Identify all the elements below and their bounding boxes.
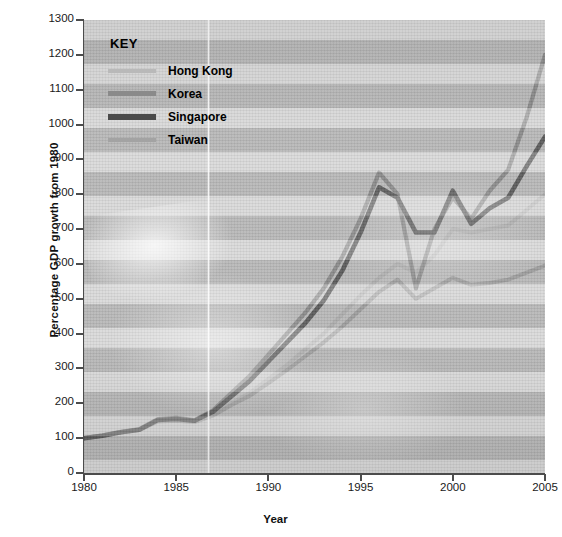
x-tick-mark (267, 474, 269, 481)
y-tick-label: 1300 (28, 13, 74, 25)
y-tick-label: 200 (28, 396, 74, 408)
y-tick-label: 500 (28, 292, 74, 304)
y-tick-mark (76, 193, 84, 195)
x-tick-label: 2000 (423, 481, 483, 493)
legend: KEY Hong KongKoreaSingaporeTaiwan (108, 36, 298, 151)
y-tick-label: 900 (28, 152, 74, 164)
y-tick-mark (76, 228, 84, 230)
y-tick-mark (76, 402, 84, 404)
y-tick-label: 700 (28, 222, 74, 234)
y-tick-mark (76, 367, 84, 369)
legend-item-taiwan: Taiwan (108, 128, 298, 151)
legend-swatch-icon (108, 138, 156, 142)
legend-label: Taiwan (168, 133, 208, 147)
legend-items: Hong KongKoreaSingaporeTaiwan (108, 59, 298, 151)
y-tick-mark (76, 263, 84, 265)
y-tick-label: 300 (28, 361, 74, 373)
legend-item-korea: Korea (108, 82, 298, 105)
y-tick-label: 100 (28, 431, 74, 443)
y-tick-label: 400 (28, 327, 74, 339)
y-tick-mark (76, 298, 84, 300)
legend-title: KEY (110, 36, 298, 51)
y-tick-mark (76, 19, 84, 21)
y-tick-mark (76, 158, 84, 160)
x-axis-title: Year (0, 513, 551, 525)
x-tick-label: 1985 (146, 481, 206, 493)
legend-item-singapore: Singapore (108, 105, 298, 128)
legend-label: Korea (168, 87, 202, 101)
x-tick-mark (452, 474, 454, 481)
y-tick-mark (76, 54, 84, 56)
y-tick-mark (76, 437, 84, 439)
x-tick-mark (83, 474, 85, 481)
y-tick-label: 1100 (28, 83, 74, 95)
y-tick-mark (76, 124, 84, 126)
legend-swatch-icon (108, 69, 156, 73)
legend-label: Singapore (168, 110, 227, 124)
y-tick-label: 600 (28, 257, 74, 269)
x-tick-mark (544, 474, 546, 481)
x-tick-mark (360, 474, 362, 481)
x-tick-label: 1995 (331, 481, 391, 493)
legend-item-hong-kong: Hong Kong (108, 59, 298, 82)
x-tick-label: 2005 (515, 481, 562, 493)
x-tick-label: 1990 (238, 481, 298, 493)
y-tick-mark (76, 89, 84, 91)
x-axis-line (83, 473, 545, 475)
y-tick-label: 1000 (28, 118, 74, 130)
plot-area: KEY Hong KongKoreaSingaporeTaiwan (84, 20, 545, 473)
y-tick-label: 0 (28, 466, 74, 478)
legend-swatch-icon (108, 114, 156, 120)
y-tick-mark (76, 333, 84, 335)
y-tick-label: 800 (28, 187, 74, 199)
y-axis-tick-labels: 0100200300400500600700800900100011001200… (26, 0, 74, 537)
x-tick-label: 1980 (54, 481, 114, 493)
y-tick-label: 1200 (28, 48, 74, 60)
legend-swatch-icon (108, 91, 156, 96)
legend-label: Hong Kong (168, 64, 233, 78)
x-tick-mark (175, 474, 177, 481)
